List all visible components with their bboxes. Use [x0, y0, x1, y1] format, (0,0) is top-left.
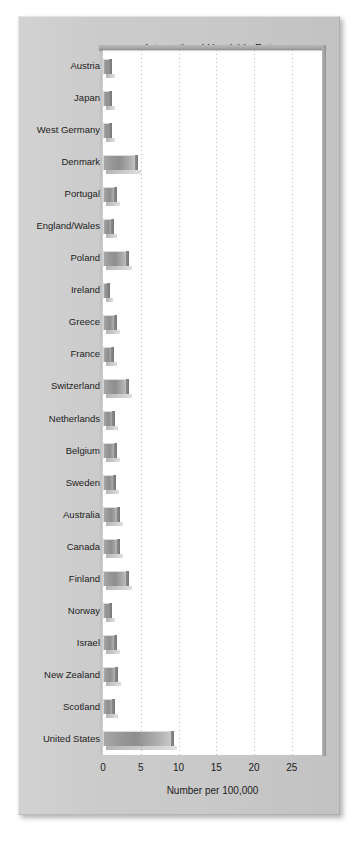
plot-wrap: AustriaJapanWest GermanyDenmarkPortugalE… — [103, 50, 322, 755]
category-label: United States — [18, 733, 100, 744]
bar-row — [103, 667, 322, 687]
bar-end-cap — [171, 731, 174, 746]
category-label: Sweden — [18, 477, 100, 488]
bar-shadow — [106, 202, 120, 206]
bar-row — [103, 603, 322, 623]
bar-row — [103, 187, 322, 207]
bar-shadow — [106, 586, 132, 590]
bar-end-cap — [109, 123, 112, 138]
category-label: Switzerland — [18, 380, 100, 391]
bar-row — [103, 251, 322, 271]
bar-row — [103, 59, 322, 79]
category-label: Austria — [18, 60, 100, 71]
category-label: Japan — [18, 92, 100, 103]
bar-end-cap — [126, 379, 129, 394]
category-label: Ireland — [18, 284, 100, 295]
category-label: Australia — [18, 509, 100, 520]
bar-row — [103, 379, 322, 399]
bar-row — [103, 347, 322, 367]
bar-row — [103, 475, 322, 495]
x-tick-label: 20 — [248, 762, 259, 773]
category-label: Canada — [18, 541, 100, 552]
bar-end-cap — [135, 155, 138, 170]
bar-end-cap — [114, 443, 117, 458]
x-tick-label: 15 — [211, 762, 222, 773]
category-label: France — [18, 348, 100, 359]
bar-shadow — [106, 106, 115, 110]
bar-end-cap — [126, 251, 129, 266]
bar-row — [103, 699, 322, 719]
bar-row — [103, 315, 322, 335]
bar-end-cap — [117, 539, 120, 554]
bar-row — [103, 635, 322, 655]
bar-end-cap — [111, 219, 114, 234]
bar-shadow — [106, 330, 120, 334]
bar-row — [103, 91, 322, 111]
bar-row — [103, 411, 322, 431]
bar-end-cap — [114, 315, 117, 330]
bar-shadow — [106, 522, 123, 526]
bar-shadow — [106, 650, 120, 654]
bar-shadow — [106, 234, 117, 238]
bar-row — [103, 283, 322, 303]
category-label: Poland — [18, 252, 100, 263]
bar-end-cap — [126, 571, 129, 586]
category-label: New Zealand — [18, 669, 100, 680]
category-label: Finland — [18, 573, 100, 584]
x-tick-label: 5 — [138, 762, 144, 773]
bar-end-cap — [114, 187, 117, 202]
bar-end-cap — [109, 91, 112, 106]
category-label: Israel — [18, 637, 100, 648]
x-tick-label: 0 — [100, 762, 106, 773]
category-label: England/Wales — [18, 220, 100, 231]
category-label: Scotland — [18, 701, 100, 712]
bar-shadow — [106, 394, 132, 398]
bar-shadow — [106, 266, 132, 270]
bar-shadow — [106, 618, 115, 622]
bar-shadow — [106, 74, 115, 78]
bar-row — [103, 571, 322, 591]
x-axis-title: Number per 100,000 — [103, 785, 322, 796]
bar[interactable] — [103, 155, 138, 170]
bar-shadow — [106, 298, 113, 302]
bar-end-cap — [107, 283, 110, 298]
bar-shadow — [106, 554, 123, 558]
bar-shadow — [106, 426, 118, 430]
bar-row — [103, 443, 322, 463]
bar-shadow — [106, 362, 117, 366]
category-label: Greece — [18, 316, 100, 327]
bar-row — [103, 539, 322, 559]
category-label: Portugal — [18, 188, 100, 199]
bar-row — [103, 155, 322, 175]
bar-shadow — [106, 138, 115, 142]
bar-end-cap — [117, 507, 120, 522]
bar-row — [103, 507, 322, 527]
bar-end-cap — [112, 411, 115, 426]
bar-shadow — [106, 170, 141, 174]
bar-end-cap — [109, 59, 112, 74]
bar-end-cap — [114, 635, 117, 650]
bar[interactable] — [103, 731, 174, 746]
category-label: Netherlands — [18, 413, 100, 424]
x-tick-label: 10 — [173, 762, 184, 773]
bar-shadow — [106, 490, 119, 494]
bar-end-cap — [113, 475, 116, 490]
bar-row — [103, 731, 322, 751]
category-axis-labels: AustriaJapanWest GermanyDenmarkPortugalE… — [18, 50, 100, 755]
chart-card: International Homicide Rates AustriaJapa… — [18, 16, 340, 815]
bar-shadow — [106, 746, 177, 750]
bar-row — [103, 219, 322, 239]
figure-root: International Homicide Rates AustriaJapa… — [0, 0, 354, 846]
plot-frame-right — [322, 45, 326, 756]
bar-end-cap — [111, 347, 114, 362]
category-label: Belgium — [18, 445, 100, 456]
bar-shadow — [106, 458, 120, 462]
category-label: Norway — [18, 605, 100, 616]
category-label: Denmark — [18, 156, 100, 167]
x-tick-label: 25 — [286, 762, 297, 773]
bar-row — [103, 123, 322, 143]
bar-shadow — [106, 714, 118, 718]
category-label: West Germany — [18, 124, 100, 135]
bar-end-cap — [112, 699, 115, 714]
bar-end-cap — [115, 667, 118, 682]
